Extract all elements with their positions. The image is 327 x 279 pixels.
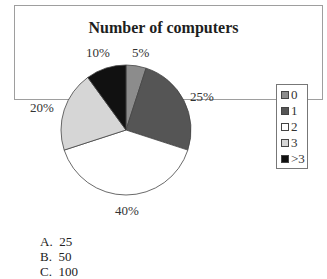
legend: 0 1 2 3 >3 bbox=[276, 84, 308, 169]
legend-item-1: 1 bbox=[281, 103, 298, 119]
label-40: 40% bbox=[115, 203, 139, 219]
answer-choices: A. 25 B. 50 C. 100 bbox=[40, 234, 78, 279]
label-5: 5% bbox=[132, 45, 149, 61]
legend-item-4: >3 bbox=[281, 151, 305, 167]
label-25: 25% bbox=[190, 89, 214, 105]
answer-a: A. 25 bbox=[40, 234, 78, 249]
legend-item-0: 0 bbox=[281, 87, 298, 103]
legend-item-3: 3 bbox=[281, 135, 298, 151]
label-10: 10% bbox=[86, 45, 110, 61]
swatch-icon bbox=[281, 107, 289, 115]
answer-b: B. 50 bbox=[40, 249, 78, 264]
swatch-icon bbox=[281, 155, 289, 163]
label-20: 20% bbox=[30, 100, 54, 116]
legend-item-2: 2 bbox=[281, 119, 298, 135]
swatch-icon bbox=[281, 139, 289, 147]
pie-slices bbox=[61, 65, 191, 195]
swatch-icon bbox=[281, 91, 289, 99]
answer-c: C. 100 bbox=[40, 264, 78, 279]
swatch-icon bbox=[281, 123, 289, 131]
